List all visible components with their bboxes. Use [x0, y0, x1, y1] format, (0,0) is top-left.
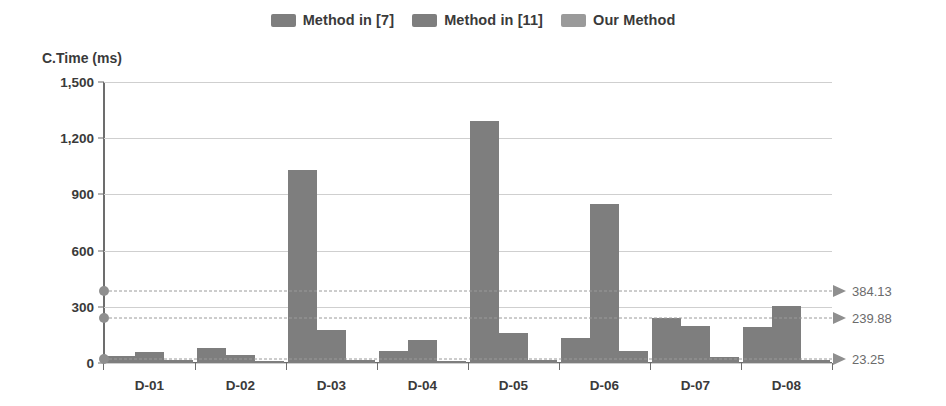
x-axis-tick-mark	[468, 363, 469, 370]
bar-group: D-04	[377, 82, 468, 363]
legend-swatch-icon	[412, 14, 437, 27]
bar[interactable]	[590, 204, 619, 363]
bar[interactable]	[801, 360, 830, 363]
legend-swatch-icon	[561, 14, 586, 27]
bar[interactable]	[255, 361, 284, 363]
legend-item: Method in [7]	[271, 12, 395, 28]
x-axis-tick-label: D-07	[650, 378, 741, 393]
legend-item-label: Method in [11]	[444, 12, 543, 28]
x-axis-tick-label: D-02	[195, 378, 286, 393]
y-axis-tick-label: 900	[71, 187, 94, 202]
x-axis-tick-mark	[741, 363, 742, 370]
x-axis-tick-label: D-04	[377, 378, 468, 393]
x-axis-tick-mark	[559, 363, 560, 370]
bar[interactable]	[408, 340, 437, 363]
bar[interactable]	[346, 360, 375, 363]
x-axis-tick-mark	[103, 363, 104, 370]
y-axis-tick-label: 0	[86, 356, 94, 371]
legend-item: Method in [11]	[412, 12, 543, 28]
reference-line-marker	[99, 313, 109, 323]
bar-group: D-01	[104, 82, 195, 363]
reference-line	[104, 358, 832, 359]
reference-line-value-label: 384.13	[852, 284, 892, 299]
bar-group: D-02	[195, 82, 286, 363]
bar[interactable]	[470, 121, 499, 363]
x-axis-tick-mark	[195, 363, 196, 370]
x-axis-tick-label: D-06	[559, 378, 650, 393]
bar[interactable]	[561, 338, 590, 363]
bar-group: D-08	[741, 82, 832, 363]
legend-item-label: Method in [7]	[303, 12, 395, 28]
legend-swatch-icon	[271, 14, 296, 27]
bar[interactable]	[619, 351, 648, 363]
reference-line-arrow-icon	[833, 285, 846, 297]
reference-line	[104, 318, 832, 319]
bar[interactable]	[379, 351, 408, 363]
bar[interactable]	[652, 318, 681, 363]
y-axis-tick-label: 300	[71, 299, 94, 314]
reference-line-value-label: 239.88	[852, 311, 892, 326]
bar-group: D-03	[286, 82, 377, 363]
reference-line-value-label: 23.25	[852, 351, 885, 366]
bar-group: D-06	[559, 82, 650, 363]
legend-item: Our Method	[561, 12, 675, 28]
bar[interactable]	[288, 170, 317, 363]
bar[interactable]	[106, 356, 135, 363]
bar[interactable]	[772, 306, 801, 363]
legend-item-label: Our Method	[593, 12, 675, 28]
y-axis-title: C.Time (ms)	[42, 50, 122, 66]
bar-group: D-05	[468, 82, 559, 363]
bar-group: D-07	[650, 82, 741, 363]
x-axis-tick-mark	[286, 363, 287, 370]
bar[interactable]	[197, 348, 226, 363]
y-axis-tick-label: 600	[71, 243, 94, 258]
bar[interactable]	[528, 360, 557, 363]
bar[interactable]	[437, 361, 466, 363]
chart-plot-area: 03006009001,2001,500 D-01D-02D-03D-04D-0…	[104, 82, 832, 363]
reference-line-arrow-icon	[833, 312, 846, 324]
chart-legend: Method in [7] Method in [11] Our Method	[0, 12, 946, 28]
y-axis-tick-label: 1,200	[60, 131, 94, 146]
reference-line-marker	[99, 286, 109, 296]
x-axis-tick-mark	[650, 363, 651, 370]
x-axis-tick-label: D-01	[104, 378, 195, 393]
reference-line	[104, 291, 832, 292]
bar[interactable]	[164, 360, 193, 363]
y-axis-tick-label: 1,500	[60, 75, 94, 90]
reference-line-arrow-icon	[833, 353, 846, 365]
x-axis-tick-mark	[377, 363, 378, 370]
reference-line-marker	[99, 354, 109, 364]
x-axis-tick-label: D-05	[468, 378, 559, 393]
x-axis-tick-label: D-08	[741, 378, 832, 393]
x-axis-tick-label: D-03	[286, 378, 377, 393]
bar-groups: D-01D-02D-03D-04D-05D-06D-07D-08	[104, 82, 832, 363]
